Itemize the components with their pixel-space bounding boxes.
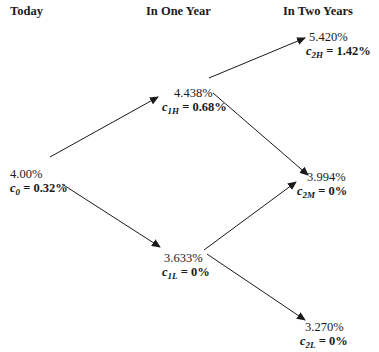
- node-2L: 3.270% c2L = 0%: [300, 320, 348, 352]
- arrow-1L-to-2M: [204, 182, 296, 250]
- node-rate: 5.420%: [306, 30, 371, 44]
- node-today: 4.00% c0 = 0.32%: [10, 167, 68, 199]
- node-coupon: c2L = 0%: [300, 334, 348, 352]
- node-1L: 3.633% c1L = 0%: [162, 251, 210, 283]
- arrow-1L-to-2L: [207, 254, 305, 320]
- arrow-0-to-1H: [50, 97, 158, 157]
- node-coupon: c2H = 1.42%: [306, 44, 371, 62]
- node-rate: 4.438%: [162, 86, 227, 100]
- node-coupon: c2M = 0%: [297, 184, 347, 202]
- node-2H: 5.420% c2H = 1.42%: [306, 30, 371, 62]
- node-coupon: c0 = 0.32%: [10, 181, 68, 199]
- node-coupon: c1H = 0.68%: [162, 100, 227, 118]
- node-rate: 3.270%: [300, 320, 348, 334]
- node-rate: 4.00%: [10, 167, 68, 181]
- node-rate: 3.994%: [297, 170, 347, 184]
- arrow-1H-to-2H: [209, 38, 305, 78]
- node-coupon: c1L = 0%: [162, 265, 210, 283]
- node-rate: 3.633%: [162, 251, 210, 265]
- arrow-1H-to-2M: [213, 93, 308, 175]
- node-1H: 4.438% c1H = 0.68%: [162, 86, 227, 118]
- node-2M: 3.994% c2M = 0%: [297, 170, 347, 202]
- arrow-0-to-1L: [62, 184, 160, 247]
